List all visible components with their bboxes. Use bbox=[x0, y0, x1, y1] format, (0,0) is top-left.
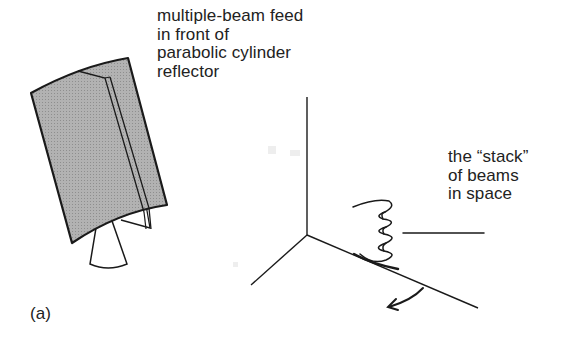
feed-label: multiple-beam feed in front of parabolic… bbox=[157, 7, 303, 81]
rotation-arrow-icon bbox=[388, 288, 423, 310]
y-axis bbox=[307, 235, 478, 308]
antenna-diagram: multiple-beam feed in front of parabolic… bbox=[0, 0, 584, 339]
beam-stack-label: the “stack” of beams in space bbox=[448, 148, 528, 204]
x-axis bbox=[251, 235, 307, 285]
beam-stack-coil-icon bbox=[353, 200, 484, 269]
scan-artifacts bbox=[233, 146, 300, 267]
panel-label: (a) bbox=[30, 305, 51, 324]
